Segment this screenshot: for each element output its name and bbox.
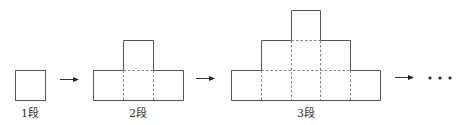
stage-3-middle-left-edge	[262, 41, 292, 71]
stage-1-label: 1段	[21, 106, 39, 120]
stage-3-middle-right-edge	[321, 41, 351, 71]
stage-3-top-square	[292, 11, 321, 41]
stage-2-label: 2段	[129, 106, 147, 120]
pyramid-diagram: 1段 2段 3段	[0, 0, 463, 125]
right-arrow-icon	[60, 77, 79, 82]
stage-3-bottom-row	[232, 71, 381, 101]
right-arrow-icon	[196, 76, 215, 81]
stage-3-figure	[232, 11, 381, 101]
stage-2-top-square	[124, 41, 154, 71]
stage-3-label: 3段	[297, 106, 315, 120]
ellipsis-icon	[428, 76, 451, 79]
stage-1-square	[16, 71, 46, 101]
stage-2-bottom-row	[94, 71, 184, 101]
stage-2-figure	[94, 41, 184, 101]
right-arrow-icon	[395, 75, 414, 80]
stage-1-figure	[16, 71, 46, 101]
